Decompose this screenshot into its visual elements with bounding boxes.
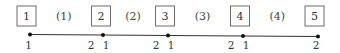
local-end-label: 2 (88, 39, 95, 51)
local-end-label: 1 (25, 39, 32, 51)
node-dot (316, 35, 320, 39)
local-end-label: 1 (243, 39, 250, 51)
element-label: (3) (195, 10, 211, 23)
element-label: (2) (125, 10, 141, 23)
node-number: 5 (311, 10, 318, 23)
node-number: 2 (98, 10, 105, 23)
beam-element-1 (30, 35, 103, 36)
element-label: (4) (269, 10, 285, 23)
local-end-label: 2 (313, 39, 320, 51)
node-number: 1 (23, 10, 30, 23)
node-number: 3 (162, 10, 169, 23)
node-number: 4 (237, 10, 244, 23)
beam-element-2 (103, 35, 168, 36)
beam-element-4 (243, 36, 318, 37)
node-dot (101, 33, 105, 37)
node-dot (241, 34, 245, 38)
node-dot (166, 34, 170, 38)
beam-element-3 (168, 36, 243, 37)
local-end-label: 2 (153, 39, 160, 51)
element-label: (1) (56, 10, 72, 23)
node-dot (28, 33, 32, 37)
local-end-label: 1 (103, 39, 110, 51)
local-end-label: 2 (228, 39, 235, 51)
local-end-label: 1 (168, 39, 175, 51)
beam-element-diagram: 12345 (1)(2)(3)(4) 12121212 (0, 0, 340, 53)
